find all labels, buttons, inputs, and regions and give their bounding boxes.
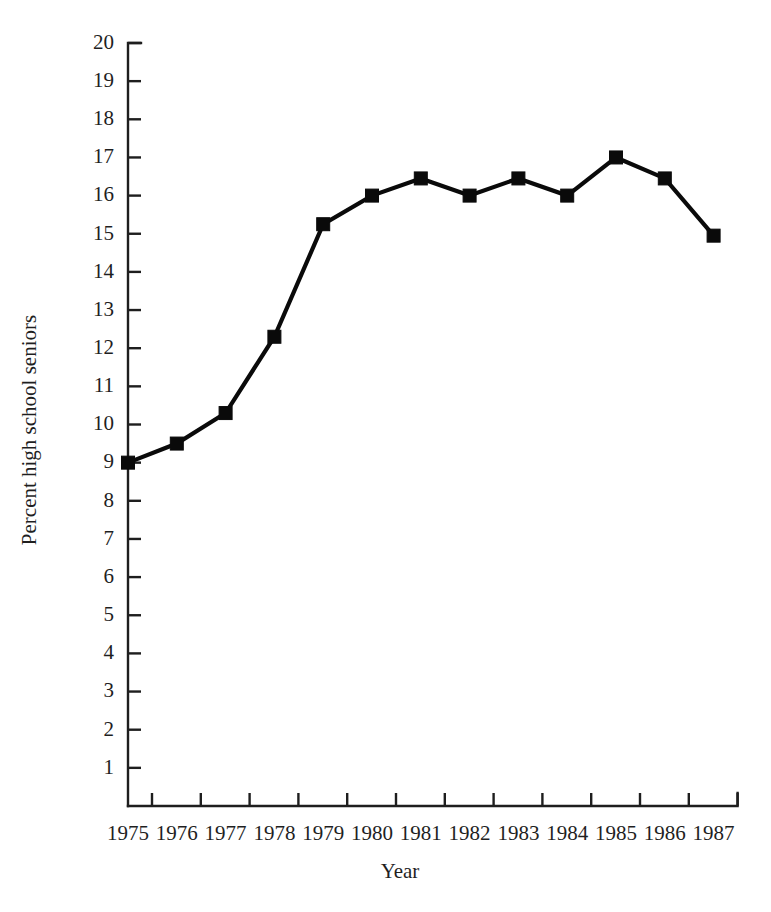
y-axis-tick-label: 9 bbox=[104, 449, 115, 473]
y-axis-tick-label: 6 bbox=[104, 564, 115, 588]
y-axis-tick-label: 11 bbox=[94, 373, 114, 397]
y-axis-tick-label: 3 bbox=[104, 678, 115, 702]
data-point-1975 bbox=[122, 456, 135, 469]
data-point-1980 bbox=[366, 189, 379, 202]
x-axis-tick-label: 1977 bbox=[205, 821, 247, 845]
x-axis-tick-label: 1975 bbox=[107, 821, 149, 845]
x-axis-tick-label: 1982 bbox=[449, 821, 491, 845]
x-axis-tick-label: 1986 bbox=[644, 821, 686, 845]
y-axis-title: Percent high school seniors bbox=[17, 315, 41, 545]
x-axis-tick-label: 1980 bbox=[351, 821, 393, 845]
chart-figure: 1234567891011121314151617181920 19751976… bbox=[0, 0, 771, 912]
data-point-1986 bbox=[658, 172, 671, 185]
x-axis-tick-label: 1987 bbox=[693, 821, 735, 845]
data-point-1977 bbox=[219, 407, 232, 420]
x-axis-tick-label: 1978 bbox=[253, 821, 295, 845]
data-point-1982 bbox=[463, 189, 476, 202]
data-point-1978 bbox=[268, 330, 281, 343]
data-point-1976 bbox=[170, 437, 183, 450]
x-axis-tick-label: 1979 bbox=[302, 821, 344, 845]
y-axis-tick-label: 20 bbox=[93, 30, 114, 54]
x-axis-tick-label: 1981 bbox=[400, 821, 442, 845]
y-axis-tick-label: 16 bbox=[93, 182, 114, 206]
y-axis-tick-label: 7 bbox=[104, 526, 115, 550]
y-axis-tick-label: 17 bbox=[93, 144, 114, 168]
x-axis-tick-label: 1984 bbox=[546, 821, 589, 845]
y-axis-tick-label: 8 bbox=[104, 488, 115, 512]
data-point-1983 bbox=[512, 172, 525, 185]
data-point-1984 bbox=[561, 189, 574, 202]
data-point-1987 bbox=[707, 229, 720, 242]
data-point-1985 bbox=[610, 151, 623, 164]
line-chart-canvas: 1234567891011121314151617181920 19751976… bbox=[0, 0, 771, 912]
y-axis-tick-label: 5 bbox=[104, 602, 115, 626]
y-axis-tick-label: 1 bbox=[104, 755, 115, 779]
y-axis-tick-label: 4 bbox=[104, 640, 115, 664]
y-axis-tick-label: 10 bbox=[93, 411, 114, 435]
y-axis-tick-label: 12 bbox=[93, 335, 114, 359]
y-axis-tick-label: 15 bbox=[93, 221, 114, 245]
x-axis-tick-label: 1976 bbox=[156, 821, 198, 845]
x-axis-title: Year bbox=[381, 859, 420, 883]
data-point-1981 bbox=[414, 172, 427, 185]
y-axis-tick-label: 18 bbox=[93, 106, 114, 130]
data-point-1979 bbox=[317, 218, 330, 231]
y-axis-tick-label: 2 bbox=[104, 717, 115, 741]
y-axis-tick-label: 19 bbox=[93, 68, 114, 92]
x-axis-tick-label: 1985 bbox=[595, 821, 637, 845]
y-axis-tick-label: 14 bbox=[93, 259, 115, 283]
x-axis-tick-label: 1983 bbox=[497, 821, 539, 845]
y-axis-tick-label: 13 bbox=[93, 297, 114, 321]
chart-background bbox=[0, 0, 771, 912]
